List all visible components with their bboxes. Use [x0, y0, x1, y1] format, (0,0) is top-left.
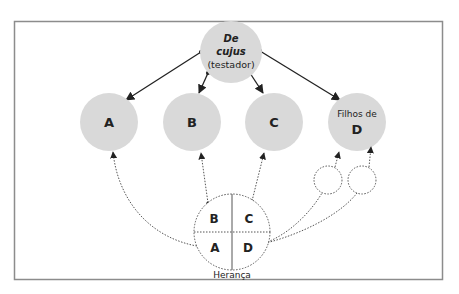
quadrant-d: D — [243, 241, 253, 255]
root-label-line2: cujus — [216, 46, 246, 57]
heir-label-b: B — [187, 115, 197, 130]
root-node-de-cujus: De cujus (testador) — [200, 21, 262, 83]
descendant-circle-2 — [348, 166, 376, 194]
root-label-line3: (testador) — [207, 59, 254, 70]
heir-node-filhos-de-d: Filhos de D — [328, 93, 386, 151]
heir-label-a: A — [104, 115, 114, 130]
heir-node-b: B — [163, 93, 221, 151]
heir-label-d: D — [352, 122, 363, 137]
quadrant-c: C — [245, 212, 254, 226]
descendant-circle-1 — [314, 166, 342, 194]
descendant-circles — [314, 166, 376, 194]
heir-label-c: C — [269, 115, 279, 130]
heir-node-c: C — [245, 93, 303, 151]
heir-node-a: A — [80, 93, 138, 151]
inheritance-diagram: De cujus (testador) A B C Filhos de D — [0, 0, 459, 294]
quadrant-a: A — [210, 241, 220, 255]
heir-prefix-d: Filhos de — [337, 109, 377, 119]
inheritance-circle: B C A D Herança — [194, 194, 270, 280]
root-label-line1: De — [223, 33, 238, 44]
inheritance-caption: Herança — [213, 270, 251, 280]
quadrant-b: B — [209, 212, 218, 226]
